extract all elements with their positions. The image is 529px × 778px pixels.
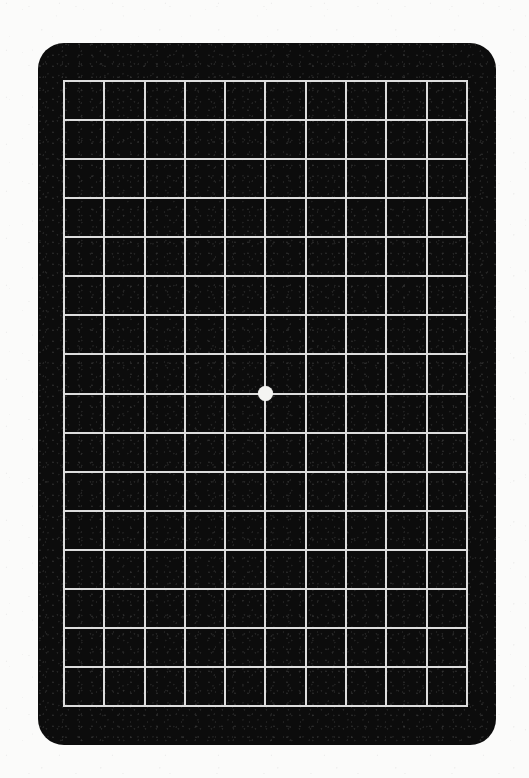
grid-cell [105, 629, 145, 668]
grid-cell [65, 121, 105, 160]
grid-cell [266, 551, 306, 590]
amsler-grid[interactable] [63, 80, 468, 707]
grid-cell [186, 395, 226, 434]
grid-cell [146, 473, 186, 512]
grid-cell [266, 238, 306, 277]
grid-cell [266, 121, 306, 160]
grid-cell [387, 121, 427, 160]
grid-cell [347, 121, 387, 160]
grid-cell [65, 668, 105, 707]
grid-cell [266, 590, 306, 629]
grid-cell [307, 238, 347, 277]
grid-cell [105, 160, 145, 199]
grid-cell [105, 590, 145, 629]
grid-cell [428, 316, 468, 355]
grid-cell [186, 590, 226, 629]
grid-cell [226, 121, 266, 160]
grid-cell [146, 434, 186, 473]
grid-cell [307, 355, 347, 394]
grid-cell [226, 668, 266, 707]
grid-cell [226, 277, 266, 316]
grid-cell [307, 82, 347, 121]
grid-cell [347, 551, 387, 590]
grid-cell [266, 629, 306, 668]
grid-cell [226, 512, 266, 551]
grid-cell [307, 121, 347, 160]
grid-cell [65, 512, 105, 551]
grid-cell [387, 395, 427, 434]
grid-cell [186, 316, 226, 355]
grid-cell [65, 629, 105, 668]
grid-cell [146, 82, 186, 121]
grid-cell [428, 668, 468, 707]
grid-cell [307, 473, 347, 512]
grid-cell [387, 82, 427, 121]
grid-cell [146, 395, 186, 434]
grid-cell [226, 551, 266, 590]
grid-cell [428, 82, 468, 121]
grid-cell [186, 473, 226, 512]
grid-cell [266, 434, 306, 473]
grid-cell [347, 512, 387, 551]
grid-cell [428, 238, 468, 277]
grid-cell [307, 629, 347, 668]
grid-cell [65, 434, 105, 473]
grid-cell [65, 238, 105, 277]
grid-cell [65, 160, 105, 199]
grid-cell [105, 395, 145, 434]
grid-cell [65, 590, 105, 629]
grid-cell [186, 629, 226, 668]
grid-cell [428, 629, 468, 668]
grid-cell [428, 590, 468, 629]
grid-cell [387, 473, 427, 512]
grid-cell [105, 82, 145, 121]
grid-cell [146, 512, 186, 551]
grid-cell [105, 355, 145, 394]
grid-cell [186, 82, 226, 121]
grid-cell [428, 160, 468, 199]
grid-cell [105, 434, 145, 473]
grid-cell [387, 590, 427, 629]
grid-cell [65, 316, 105, 355]
grid-cell [226, 355, 266, 394]
grid-cell [387, 316, 427, 355]
grid-cell [307, 395, 347, 434]
grid-cell [307, 434, 347, 473]
grid-cell [266, 395, 306, 434]
grid-cell [266, 82, 306, 121]
grid-cell [428, 551, 468, 590]
grid-cell [146, 121, 186, 160]
amsler-grid-card[interactable] [38, 43, 496, 745]
grid-cell [105, 238, 145, 277]
grid-cell [347, 395, 387, 434]
grid-cell [186, 512, 226, 551]
grid-cell [428, 355, 468, 394]
grid-cell [226, 434, 266, 473]
grid-cell [105, 473, 145, 512]
grid-cell [65, 277, 105, 316]
grid-cell [347, 355, 387, 394]
grid-cell [347, 434, 387, 473]
grid-cell [307, 316, 347, 355]
grid-cell [226, 82, 266, 121]
grid-cell [186, 434, 226, 473]
grid-cell [266, 277, 306, 316]
grid-cell [146, 668, 186, 707]
grid-cell [146, 277, 186, 316]
grid-cell [105, 277, 145, 316]
grid-cell [347, 668, 387, 707]
grid-cell [105, 316, 145, 355]
grid-cell [347, 82, 387, 121]
grid-cell [307, 551, 347, 590]
page-root [0, 0, 529, 778]
grid-cell [266, 668, 306, 707]
grid-cell [266, 512, 306, 551]
grid-cell [387, 238, 427, 277]
grid-cell [226, 629, 266, 668]
grid-cell [387, 160, 427, 199]
grid-cell [65, 395, 105, 434]
grid-cell [226, 473, 266, 512]
grid-cell [428, 434, 468, 473]
grid-cell [307, 277, 347, 316]
grid-cell [266, 473, 306, 512]
